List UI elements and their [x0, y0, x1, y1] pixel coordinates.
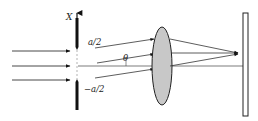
observation-screen: [243, 13, 248, 116]
slit: [76, 18, 79, 110]
incident-arrows: [12, 51, 70, 80]
converging-lens: [152, 27, 172, 105]
label-upper-edge: a/2: [88, 37, 101, 47]
focused-rays: [170, 39, 238, 66]
x-axis-label: X: [65, 12, 73, 22]
label-theta: θ: [123, 53, 128, 63]
diffraction-diagram: X a/2 −a/2 θ: [0, 0, 258, 121]
label-lower-edge: −a/2: [84, 84, 104, 94]
